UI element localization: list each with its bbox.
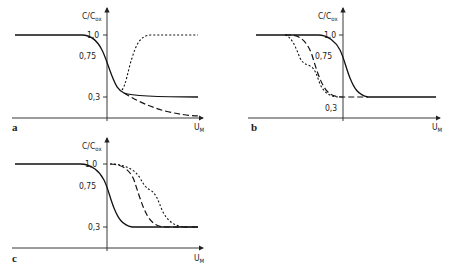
panel-label-c: c — [12, 252, 17, 264]
y-tick-label-0-3: 0,3 — [88, 92, 100, 102]
panel-a: C/Cox 1,0 0,75 0,3 UM a — [12, 8, 205, 133]
panel-b: C/Cox 1,0 0,75 0,3 UM b — [248, 8, 443, 133]
y-tick-label-0-75: 0,75 — [79, 51, 96, 61]
y-tick-label-1-0: 1,0 — [85, 159, 97, 169]
cv-curves-figure: C/Cox 1,0 0,75 0,3 UM a C/Cox 1,0 0,75 0… — [0, 0, 450, 275]
x-axis-label: UM — [194, 253, 205, 264]
panel-label-b: b — [251, 121, 257, 133]
y-axis-label: C/Cox — [82, 11, 102, 22]
y-tick-label-0-3: 0,3 — [325, 103, 337, 113]
y-tick-label-0-75: 0,75 — [79, 181, 96, 191]
panel-c: C/Cox 1,0 0,75 0,3 UM c — [12, 138, 205, 264]
curve-dotted — [110, 164, 198, 227]
panel-label-a: a — [12, 121, 18, 133]
y-axis-label: C/Cox — [318, 11, 338, 22]
curve-solid — [15, 35, 198, 97]
y-axis-label: C/Cox — [82, 141, 102, 152]
x-axis-label: UM — [432, 122, 443, 133]
y-tick-label-0-75: 0,75 — [315, 51, 332, 61]
curve-dashed — [285, 35, 368, 97]
curve-dotted — [285, 35, 340, 97]
x-axis-label: UM — [194, 122, 205, 133]
curve-solid — [15, 164, 198, 227]
curve-solid — [256, 35, 436, 97]
curve-dashed — [110, 164, 198, 227]
y-tick-label-0-3: 0,3 — [88, 222, 100, 232]
curve-dotted — [122, 35, 198, 90]
